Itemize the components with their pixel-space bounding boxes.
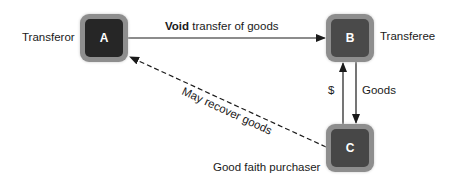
node-b: B: [326, 14, 374, 62]
node-c-letter: C: [331, 129, 369, 167]
edge-c-to-a: [130, 57, 326, 147]
edge-c-to-b-label: $: [328, 84, 334, 96]
node-a: A: [80, 14, 128, 62]
node-a-letter: A: [85, 19, 123, 57]
void-emphasis: Void: [165, 20, 189, 32]
edge-a-to-b-label: Void transfer of goods: [165, 20, 279, 32]
edge-c-to-a-label: May recover goods: [180, 85, 274, 137]
edge-a-to-b-text: transfer of goods: [189, 20, 279, 32]
edge-b-to-c-label: Goods: [362, 84, 396, 96]
node-a-label: Transferor: [22, 31, 75, 43]
node-b-label: Transferee: [380, 30, 435, 42]
node-c: C: [326, 124, 374, 172]
node-c-label: Good faith purchaser: [213, 161, 320, 173]
node-b-letter: B: [331, 19, 369, 57]
